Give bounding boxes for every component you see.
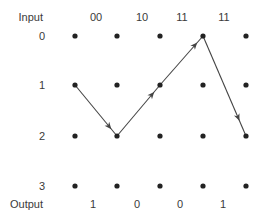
state-node <box>157 33 162 38</box>
path-edge <box>203 36 246 136</box>
state-node <box>200 33 205 38</box>
arrowhead-icon <box>234 113 242 122</box>
state-node <box>200 133 205 138</box>
state-node <box>243 133 248 138</box>
state-node <box>114 33 119 38</box>
state-node <box>243 183 248 188</box>
state-node <box>200 82 205 87</box>
state-node <box>243 82 248 87</box>
state-node <box>114 183 119 188</box>
state-node <box>114 82 119 87</box>
state-node <box>157 133 162 138</box>
state-node <box>157 82 162 87</box>
state-node <box>114 133 119 138</box>
state-node <box>200 183 205 188</box>
state-node <box>72 82 77 87</box>
trellis-graph <box>0 0 263 223</box>
state-node <box>243 33 248 38</box>
state-node <box>157 183 162 188</box>
state-node <box>72 133 77 138</box>
state-node <box>72 33 77 38</box>
state-nodes <box>72 33 248 188</box>
state-node <box>72 183 77 188</box>
